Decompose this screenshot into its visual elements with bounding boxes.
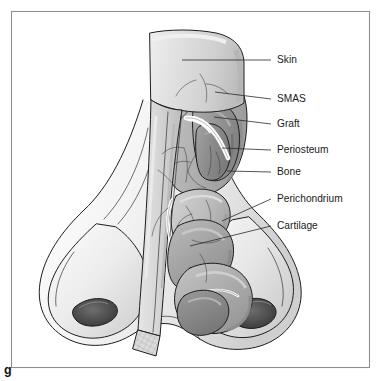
anatomy-illustration: Skin SMAS Graft Periosteum Bone Perichon… (0, 0, 380, 381)
label-smas: SMAS (277, 93, 306, 104)
label-perichondrium: Perichondrium (277, 193, 343, 204)
label-skin: Skin (277, 54, 297, 65)
label-bone: Bone (277, 166, 301, 177)
label-periosteum: Periosteum (277, 144, 329, 155)
figure-letter: g (4, 363, 12, 377)
label-graft: Graft (277, 118, 300, 129)
figure-panel: Skin SMAS Graft Periosteum Bone Perichon… (0, 0, 380, 381)
label-cartilage: Cartilage (277, 220, 318, 231)
